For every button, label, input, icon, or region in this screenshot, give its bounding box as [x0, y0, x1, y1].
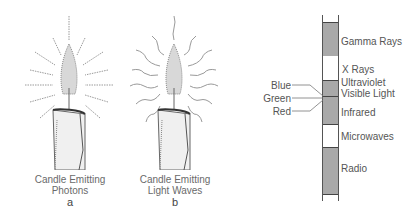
label-red: Red [267, 106, 291, 117]
band-gamma-rays [323, 22, 338, 57]
label-green: Green [260, 93, 291, 104]
visible-color-leader-lines [290, 75, 330, 115]
label-radio: Radio [341, 163, 367, 174]
caption-photons-line2: Photons [22, 185, 118, 196]
label-microwaves: Microwaves [341, 131, 394, 142]
caption-waves-line2: Light Waves [125, 185, 225, 196]
label-x-rays: X Rays [342, 64, 374, 75]
label-gamma-rays: Gamma Rays [341, 36, 402, 47]
candle-waves-icon [130, 10, 220, 170]
caption-waves-line1: Candle Emitting [125, 174, 225, 185]
label-visible-light: Visible Light [341, 88, 395, 99]
band-radio [323, 148, 338, 195]
label-blue: Blue [267, 80, 291, 91]
figure-letter-b: b [125, 196, 225, 208]
figure-letter-a: a [22, 196, 118, 208]
candle-photons-illustration [25, 10, 115, 170]
candle-photons-icon [25, 10, 115, 170]
caption-photons-line1: Candle Emitting [22, 174, 118, 185]
band-microwaves [323, 125, 338, 148]
label-infrared: Infrared [341, 107, 375, 118]
candle-light-waves-illustration [130, 10, 220, 170]
label-ultraviolet: Ultraviolet [341, 77, 385, 88]
